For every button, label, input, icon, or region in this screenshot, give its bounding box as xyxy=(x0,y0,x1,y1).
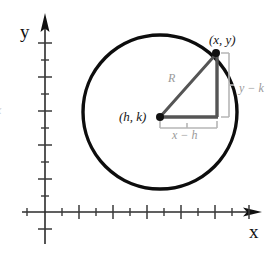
clipped-edge-glyph: x xyxy=(0,104,1,116)
diagram-canvas xyxy=(0,0,280,255)
label-y-minus-k: y − k xyxy=(239,82,264,94)
triangle-hypotenuse-R xyxy=(160,53,217,117)
y-axis-label: y xyxy=(20,22,30,41)
circle-center-dot xyxy=(156,113,164,121)
axes-group xyxy=(22,13,262,244)
point-on-circle-dot xyxy=(212,49,220,57)
label-x-minus-h: x − h xyxy=(172,129,197,141)
bracket-x-minus-h xyxy=(160,121,217,128)
right-triangle-shape xyxy=(160,53,218,117)
label-radius-R: R xyxy=(168,72,175,84)
bracket-y-minus-k xyxy=(221,53,229,117)
x-axis-label: x xyxy=(249,222,259,241)
label-point-xy: (x, y) xyxy=(209,33,236,46)
circle-diagram-figure: (x, y) (h, k) R y − k x − h y x x xyxy=(0,0,280,255)
label-point-hk: (h, k) xyxy=(119,110,146,123)
